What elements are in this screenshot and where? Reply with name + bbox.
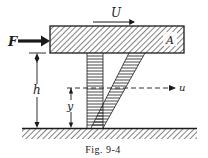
local-velocity-label: u xyxy=(179,82,185,93)
stationary-ground xyxy=(22,129,197,140)
plate-velocity-arrow: U xyxy=(93,6,134,22)
plate-velocity-label: U xyxy=(111,6,122,20)
figure-caption: Fig. 9-4 xyxy=(85,144,121,155)
moving-plate: A xyxy=(50,26,184,53)
force-label: F xyxy=(7,34,18,49)
sheared-profile-stack xyxy=(91,53,145,128)
height-coordinate-label: y xyxy=(66,100,74,113)
force-arrow: F xyxy=(7,34,50,49)
height-coordinate-dimension: y xyxy=(66,88,74,128)
plate-area-label: A xyxy=(165,34,174,47)
gap-height-dimension: h xyxy=(29,53,46,128)
gap-height-label: h xyxy=(33,83,41,97)
uniform-profile-stack xyxy=(87,53,103,128)
couette-flow-diagram: A U F h y xyxy=(0,0,208,158)
local-velocity-arrow: u xyxy=(67,82,185,93)
